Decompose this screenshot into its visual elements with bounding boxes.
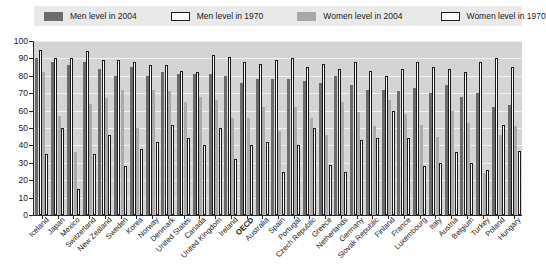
bar-group xyxy=(271,41,284,215)
y-axis-tick-label: 100 xyxy=(14,37,28,46)
bar-group xyxy=(256,41,269,215)
bar-men70 xyxy=(133,62,136,215)
bar-group xyxy=(334,41,347,215)
bar-men70 xyxy=(212,55,215,215)
bar-group xyxy=(161,41,174,215)
y-axis-tick-label: 30 xyxy=(19,158,28,167)
bar-group xyxy=(350,41,363,215)
legend-label-women-2004: Women level in 2004 xyxy=(323,11,402,21)
bar-group xyxy=(240,41,253,215)
bar-group xyxy=(319,41,332,215)
chart-legend: Men level in 2004 Men level in 1970 Wome… xyxy=(34,6,522,26)
bar-men70 xyxy=(54,58,57,215)
bar-men70 xyxy=(354,62,357,215)
bar-group xyxy=(177,41,190,215)
legend-item-women-1970: Women level in 1970 xyxy=(441,6,546,26)
y-axis-tick-label: 80 xyxy=(19,71,28,80)
y-axis-tick-mark xyxy=(29,180,33,181)
bar-men70 xyxy=(149,65,152,215)
bar-wom70 xyxy=(360,140,363,215)
bar-men70 xyxy=(369,71,372,215)
bar-group xyxy=(35,41,48,215)
legend-swatch-men-2004 xyxy=(44,12,63,21)
bar-wom70 xyxy=(124,166,127,215)
legend-item-women-2004: Women level in 2004 xyxy=(297,6,402,26)
bar-wom70 xyxy=(187,138,190,215)
y-axis-tick-mark xyxy=(29,58,33,59)
y-axis-tick-mark xyxy=(29,111,33,112)
bar-group xyxy=(445,41,458,215)
bar-wom70 xyxy=(61,128,64,215)
legend-label-men-1970: Men level in 1970 xyxy=(197,11,264,21)
bar-wom70 xyxy=(313,128,316,215)
bar-group xyxy=(130,41,143,215)
bar-group xyxy=(476,41,489,215)
bar-men70 xyxy=(165,65,168,215)
legend-swatch-women-2004 xyxy=(297,12,316,21)
y-axis-tick-label: 60 xyxy=(19,106,28,115)
bar-group xyxy=(397,41,410,215)
bar-men70 xyxy=(196,72,199,215)
bar-wom70 xyxy=(407,138,410,215)
bar-wom70 xyxy=(156,142,159,215)
bar-wom70 xyxy=(203,145,206,215)
bar-wom70 xyxy=(486,170,489,215)
bar-wom70 xyxy=(93,154,96,215)
bar-men70 xyxy=(495,58,498,215)
bar-group xyxy=(83,41,96,215)
y-axis-tick-mark xyxy=(29,215,33,216)
bar-wom70 xyxy=(502,125,505,215)
bar-group xyxy=(224,41,237,215)
bar-men70 xyxy=(275,60,278,215)
bar-group xyxy=(98,41,111,215)
bar-wom70 xyxy=(392,111,395,215)
bar-group xyxy=(413,41,426,215)
bar-group xyxy=(146,41,159,215)
bar-wom70 xyxy=(439,163,442,215)
y-axis-tick-label: 20 xyxy=(19,176,28,185)
bar-wom70 xyxy=(140,149,143,215)
legend-label-women-1970: Women level in 1970 xyxy=(467,11,546,21)
bar-wom70 xyxy=(266,142,269,215)
bar-wom70 xyxy=(282,172,285,216)
bar-wom70 xyxy=(108,135,111,215)
y-axis-tick-mark xyxy=(29,93,33,94)
bar-men70 xyxy=(259,64,262,215)
y-axis-tick-label: 10 xyxy=(19,193,28,202)
bar-wom70 xyxy=(329,165,332,215)
bar-men70 xyxy=(322,64,325,215)
bar-group xyxy=(366,41,379,215)
y-axis-tick-mark xyxy=(29,163,33,164)
legend-item-men-1970: Men level in 1970 xyxy=(171,6,264,26)
bar-wom70 xyxy=(376,138,379,215)
bar-wom70 xyxy=(234,159,237,215)
bar-wom70 xyxy=(77,189,80,215)
bar-men70 xyxy=(432,67,435,215)
legend-label-men-2004: Men level in 2004 xyxy=(70,11,137,21)
bar-men70 xyxy=(448,69,451,215)
bar-groups xyxy=(34,41,522,215)
bar-group xyxy=(429,41,442,215)
bar-men70 xyxy=(306,67,309,215)
bar-wom70 xyxy=(171,125,174,215)
bar-men70 xyxy=(117,60,120,215)
bar-wom70 xyxy=(470,163,473,215)
bar-men70 xyxy=(291,58,294,215)
bar-group xyxy=(67,41,80,215)
bar-wom70 xyxy=(45,154,48,215)
y-axis-tick-mark xyxy=(29,145,33,146)
y-axis-tick-label: 50 xyxy=(19,124,28,133)
legend-item-men-2004: Men level in 2004 xyxy=(44,6,137,26)
bar-men70 xyxy=(385,76,388,215)
bar-men70 xyxy=(511,67,514,215)
y-axis-tick-mark xyxy=(29,41,33,42)
bar-men70 xyxy=(464,72,467,215)
bar-wom70 xyxy=(250,145,253,215)
bar-wom70 xyxy=(297,145,300,215)
bar-group xyxy=(303,41,316,215)
legend-swatch-men-1970 xyxy=(171,12,190,21)
bar-men70 xyxy=(338,69,341,215)
y-axis-tick-label: 40 xyxy=(19,141,28,150)
bar-men70 xyxy=(39,50,42,215)
